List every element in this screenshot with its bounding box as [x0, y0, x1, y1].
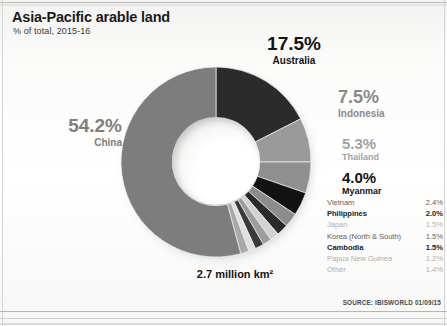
- callout-thailand: 5.3% Thailand: [342, 136, 442, 163]
- callout-thailand-pct: 5.3%: [342, 136, 442, 151]
- legend-value: 1.5%: [426, 231, 443, 242]
- callout-indonesia-pct: 7.5%: [338, 88, 442, 106]
- bottom-rule-3: [0, 323, 447, 325]
- bottom-rule-2: [0, 318, 447, 319]
- callout-australia-pct: 17.5%: [246, 34, 342, 53]
- callout-australia: 17.5% Australia: [246, 34, 342, 66]
- legend-row: Philippines2.0%: [327, 208, 443, 219]
- top-rule: [0, 2, 447, 3]
- legend-row: Korea (North & South)1.5%: [327, 231, 443, 242]
- legend-label: Korea (North & South): [327, 231, 401, 242]
- legend-value: 1.5%: [426, 219, 443, 230]
- callout-indonesia: 7.5% Indonesia: [338, 88, 442, 119]
- callout-myanmar-pct: 4.0%: [342, 170, 442, 185]
- page-subtitle: % of total, 2015-16: [13, 26, 90, 36]
- callout-china: 54.2% China: [22, 116, 122, 148]
- donut-svg: [118, 63, 314, 263]
- source-note: SOURCE: IBISWORLD 01/09/15: [343, 299, 441, 306]
- chart-card: Asia-Pacific arable land % of total, 201…: [0, 0, 447, 326]
- legend-row: Japan1.5%: [327, 219, 443, 230]
- legend-value: 2.0%: [426, 208, 443, 219]
- callout-china-pct: 54.2%: [22, 116, 122, 135]
- legend-label: Philippines: [327, 208, 367, 219]
- page-title: Asia-Pacific arable land: [12, 9, 170, 25]
- legend-value: 1.5%: [426, 242, 443, 253]
- top-rule-secondary: [0, 4, 447, 6]
- legend-label: Japan: [327, 219, 347, 230]
- legend-row: Vietnam2.4%: [327, 197, 443, 208]
- legend-value: 1.4%: [426, 264, 443, 275]
- chart-legend: Vietnam2.4%Philippines2.0%Japan1.5%Korea…: [327, 197, 443, 275]
- legend-row: Other1.4%: [327, 264, 443, 275]
- callout-indonesia-name: Indonesia: [338, 108, 442, 119]
- legend-label: Cambodia: [327, 242, 363, 253]
- legend-label: Other: [327, 264, 346, 275]
- legend-label: Vietnam: [327, 197, 354, 208]
- right-rule: [444, 0, 445, 326]
- legend-value: 2.4%: [426, 197, 443, 208]
- callout-myanmar: 4.0% Myanmar: [342, 170, 442, 197]
- total-area-label: 2.7 million km²: [150, 268, 320, 280]
- callout-myanmar-name: Myanmar: [342, 187, 442, 197]
- legend-label: Papua New Guinea: [327, 253, 392, 264]
- donut-chart: [118, 63, 314, 263]
- callout-australia-name: Australia: [246, 55, 342, 66]
- left-rule: [2, 0, 3, 326]
- bottom-rule-1: [0, 311, 447, 312]
- legend-row: Cambodia1.5%: [327, 242, 443, 253]
- legend-row: Papua New Guinea1.2%: [327, 253, 443, 264]
- callout-thailand-name: Thailand: [342, 153, 442, 163]
- callout-china-name: China: [22, 137, 122, 148]
- legend-value: 1.2%: [426, 253, 443, 264]
- donut-slices: [121, 67, 311, 257]
